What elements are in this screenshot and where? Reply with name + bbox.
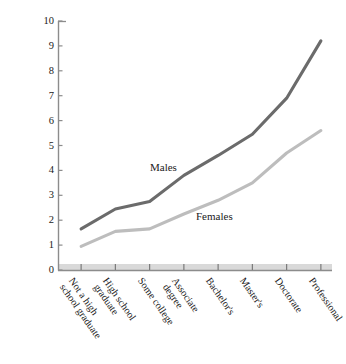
income-by-education-line-chart: Income in thousands of dollars per month…: [0, 0, 346, 364]
x-axis-tick-labels: Not a high school graduateHigh school gr…: [0, 0, 346, 364]
